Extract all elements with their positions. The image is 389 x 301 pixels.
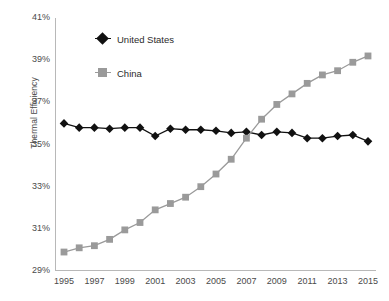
data-point-diamond bbox=[288, 129, 297, 138]
data-point-square bbox=[258, 116, 265, 123]
y-tick-label: 31% bbox=[16, 224, 50, 233]
data-point-diamond bbox=[60, 119, 69, 128]
data-point-diamond bbox=[333, 132, 342, 141]
data-point-square bbox=[167, 200, 174, 207]
data-point-diamond bbox=[181, 125, 190, 134]
x-tick-label: 2015 bbox=[348, 277, 388, 286]
data-point-diamond bbox=[197, 125, 206, 134]
legend-item-united-states[interactable]: United States bbox=[95, 28, 245, 50]
data-point-diamond bbox=[227, 129, 236, 138]
data-point-diamond bbox=[212, 127, 221, 136]
data-point-diamond bbox=[151, 132, 160, 141]
data-point-square bbox=[152, 206, 159, 213]
data-point-square bbox=[289, 91, 296, 98]
data-point-square bbox=[349, 59, 356, 66]
series-united-states bbox=[60, 119, 373, 146]
legend-label-united-states: United States bbox=[117, 34, 174, 45]
data-point-square bbox=[106, 236, 113, 243]
legend-item-china[interactable]: China bbox=[95, 62, 245, 84]
data-point-square bbox=[213, 171, 220, 178]
data-point-diamond bbox=[90, 123, 99, 132]
data-point-square bbox=[91, 242, 98, 249]
thermal-efficiency-chart: Thermal Efficiency 29%31%33%35%37%39%41%… bbox=[0, 0, 389, 301]
data-point-square bbox=[76, 244, 83, 251]
y-tick-label: 41% bbox=[16, 13, 50, 22]
y-tick-label: 39% bbox=[16, 55, 50, 64]
data-point-square bbox=[273, 101, 280, 108]
data-point-diamond bbox=[121, 123, 130, 132]
legend: United States China bbox=[95, 28, 245, 96]
data-point-square bbox=[243, 135, 250, 142]
y-tick-label: 29% bbox=[16, 266, 50, 275]
y-tick-label: 33% bbox=[16, 182, 50, 191]
legend-square-icon bbox=[95, 66, 111, 80]
data-point-square bbox=[121, 226, 128, 233]
y-axis-tick-labels: 29%31%33%35%37%39%41% bbox=[12, 0, 50, 301]
data-point-diamond bbox=[318, 134, 327, 143]
data-point-diamond bbox=[75, 123, 84, 132]
y-tick-label: 37% bbox=[16, 97, 50, 106]
legend-label-china: China bbox=[117, 68, 142, 79]
x-axis-tick-labels: 1995199719992001200320052007200920112013… bbox=[0, 277, 389, 291]
data-point-square bbox=[365, 53, 372, 60]
data-point-square bbox=[197, 183, 204, 190]
data-point-diamond bbox=[105, 124, 114, 133]
data-point-diamond bbox=[303, 134, 312, 143]
data-point-square bbox=[137, 219, 144, 226]
data-point-square bbox=[334, 67, 341, 74]
data-point-square bbox=[182, 194, 189, 201]
data-point-square bbox=[61, 249, 68, 256]
data-point-square bbox=[228, 156, 235, 163]
data-point-diamond bbox=[166, 124, 175, 133]
data-point-square bbox=[319, 72, 326, 79]
data-point-diamond bbox=[257, 131, 266, 140]
data-point-diamond bbox=[136, 123, 145, 132]
legend-diamond-icon bbox=[95, 32, 111, 46]
data-point-square bbox=[304, 80, 311, 87]
data-point-diamond bbox=[364, 137, 373, 146]
y-tick-label: 35% bbox=[16, 140, 50, 149]
data-point-diamond bbox=[273, 128, 282, 137]
data-point-diamond bbox=[349, 131, 358, 140]
